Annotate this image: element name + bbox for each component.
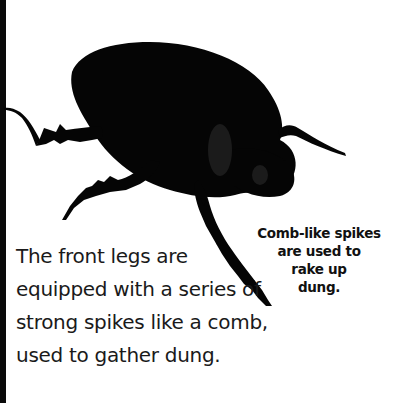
image-caption: Comb-like spikes are used to rake up dun… xyxy=(254,224,384,296)
caption-line: Comb-like spikes xyxy=(254,224,384,242)
caption-line: rake up xyxy=(254,260,384,278)
body-line: used to gather dung. xyxy=(16,339,316,372)
caption-line: dung. xyxy=(254,278,384,296)
body-line: strong spikes like a comb, xyxy=(16,306,316,339)
caption-line: are used to xyxy=(254,242,384,260)
